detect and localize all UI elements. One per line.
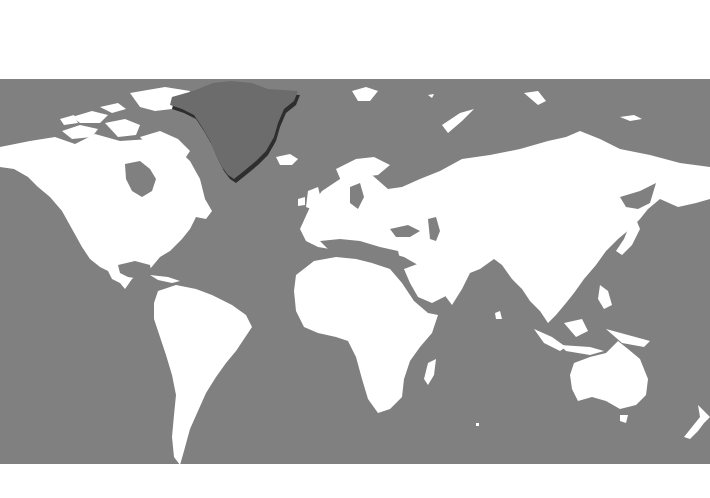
region-small-island	[476, 423, 479, 426]
region-iceland[interactable]	[276, 154, 298, 165]
region-africa[interactable]	[294, 257, 452, 413]
region-new-zealand[interactable]	[684, 405, 710, 439]
region-madagascar[interactable]	[424, 359, 436, 385]
world-map: Greenland	[0, 79, 710, 464]
region-south-america[interactable]	[154, 285, 252, 464]
map-canvas	[0, 79, 710, 464]
region-north-america[interactable]	[0, 87, 212, 289]
